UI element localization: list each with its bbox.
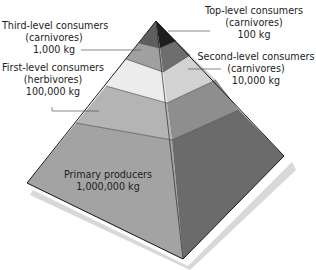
label-primary-producers: Primary producers 1,000,000 kg	[56, 169, 160, 193]
label-second-level-consumers: Second-level consumers (carnivores) 10,0…	[196, 51, 316, 87]
pyramid-diagram: Top-level consumers (carnivores) 100 kg …	[0, 0, 316, 270]
label-first-level-consumers: First-level consumers (herbivores) 100,0…	[0, 62, 106, 98]
label-third-level-mass: 1,000 kg	[2, 44, 106, 56]
label-third-level-name: Third-level consumers	[2, 20, 106, 32]
label-second-level-mass: 10,000 kg	[196, 75, 316, 87]
label-first-level-name: First-level consumers	[0, 62, 106, 74]
label-top-level-mass: 100 kg	[202, 29, 306, 41]
label-primary-name: Primary producers	[56, 169, 160, 181]
label-primary-mass: 1,000,000 kg	[56, 181, 160, 193]
label-second-level-type: (carnivores)	[196, 63, 316, 75]
label-first-level-type: (herbivores)	[0, 74, 106, 86]
label-second-level-name: Second-level consumers	[196, 51, 316, 63]
label-top-level-consumers: Top-level consumers (carnivores) 100 kg	[202, 5, 306, 41]
label-third-level-consumers: Third-level consumers (carnivores) 1,000…	[2, 20, 106, 56]
label-top-level-name: Top-level consumers	[202, 5, 306, 17]
label-top-level-type: (carnivores)	[202, 17, 306, 29]
label-third-level-type: (carnivores)	[2, 32, 106, 44]
label-first-level-mass: 100,000 kg	[0, 86, 106, 98]
